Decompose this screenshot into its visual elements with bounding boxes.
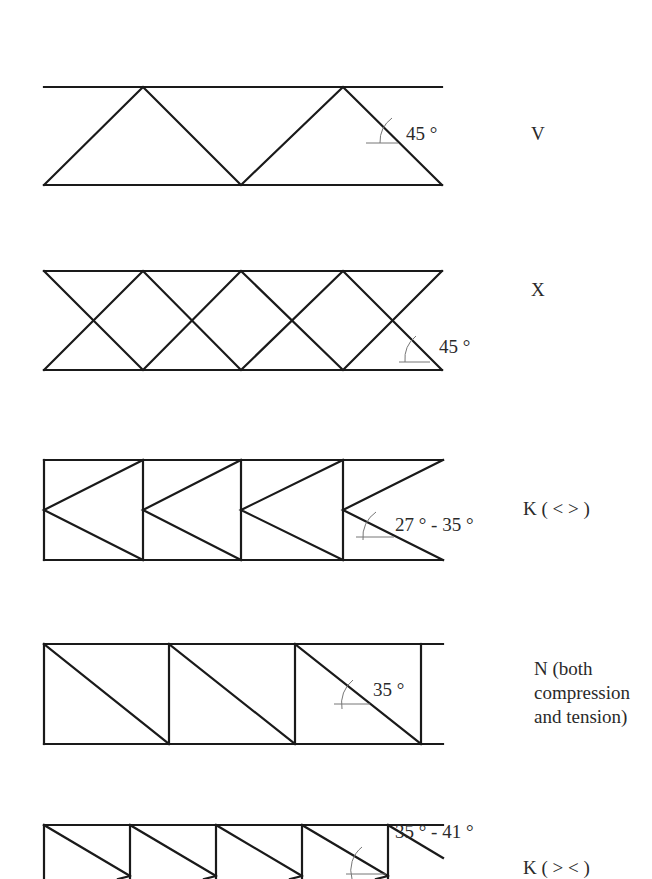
truss-diagrams <box>0 0 652 879</box>
angle-label-n: 35 ° <box>373 680 404 699</box>
angle-label-k-diamond: 27 ° - 35 ° <box>395 515 474 534</box>
angle-label-x: 45 ° <box>439 337 470 356</box>
type-label-x: X <box>531 278 545 302</box>
type-label-n-line-1: N (both <box>534 657 630 681</box>
angle-label-v: 45 ° <box>406 124 437 143</box>
type-label-n-line-2: compression <box>534 681 630 705</box>
type-label-k-diamond: K ( < > ) <box>523 497 590 521</box>
truss-x <box>44 271 442 370</box>
type-label-v: V <box>531 122 545 146</box>
truss-k-diamond <box>44 460 443 560</box>
truss-v <box>44 87 442 185</box>
truss-k-inverted <box>44 825 443 879</box>
angle-label-k-inverted: 35 ° - 41 ° <box>395 822 474 841</box>
type-label-k-inverted: K ( > < ) <box>523 856 590 879</box>
type-label-n: N (both compression and tension) <box>534 657 630 728</box>
type-label-n-line-3: and tension) <box>534 705 630 729</box>
